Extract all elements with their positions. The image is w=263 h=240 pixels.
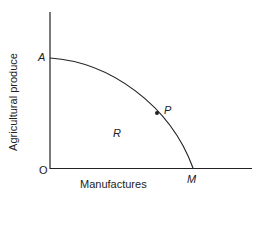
point-a-label: A <box>38 52 45 63</box>
y-axis-label: Agricultural produce <box>7 47 19 157</box>
origin-label: O <box>39 165 48 176</box>
point-p-label: P <box>164 105 171 116</box>
region-r-label: R <box>113 128 121 139</box>
point-p-marker <box>155 111 159 115</box>
x-axis-label: Manufactures <box>80 179 147 190</box>
point-m-label: M <box>187 174 196 185</box>
frontier-curve <box>50 58 193 168</box>
